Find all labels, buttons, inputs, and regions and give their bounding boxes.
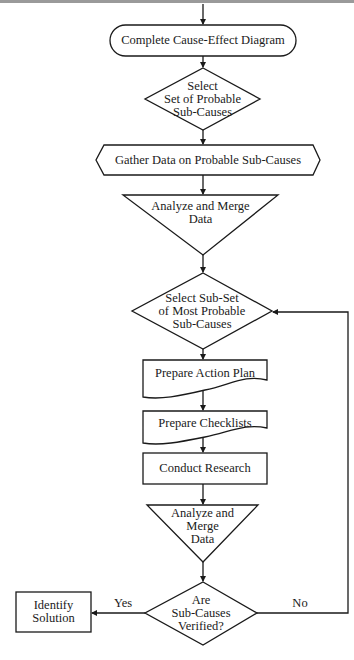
node-select-sub-set: Select Sub-Set of Most Probable Sub-Caus… [132, 273, 272, 349]
node-select-set-of-probable-sub-causes: Select Set of Probable Sub-Causes [145, 68, 260, 130]
edge-label-no: No [285, 596, 315, 610]
edge-label-yes: Yes [108, 596, 138, 610]
node-complete-cause-effect-diagram: Complete Cause-Effect Diagram [110, 25, 296, 56]
node-analyze-merge-data-1: Analyze and Merge Data [123, 198, 278, 228]
node-identify-solution: Identify Solution [16, 592, 91, 632]
arrow-no-loop [257, 312, 348, 613]
node-analyze-merge-data-2: Analyze and Merge Data [147, 506, 258, 546]
node-are-sub-causes-verified: Are Sub-Causes Verified? [145, 582, 257, 645]
node-gather-data: Gather Data on Probable Sub-Causes [96, 145, 320, 175]
node-conduct-research: Conduct Research [143, 453, 267, 484]
node-prepare-checklists: Prepare Checklists [143, 411, 267, 435]
node-prepare-action-plan: Prepare Action Plan [143, 360, 267, 386]
